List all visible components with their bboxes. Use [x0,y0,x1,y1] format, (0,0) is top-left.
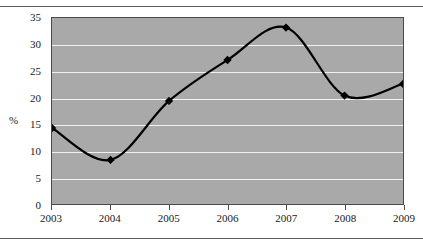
x-axis-tick-mark [51,205,52,210]
y-axis-tick-label: 35 [30,12,41,23]
x-axis-tick-label: 2003 [40,213,62,224]
y-axis-tick-label: 15 [30,119,41,130]
x-axis-tick-mark [169,205,170,210]
x-axis-tick-label: 2009 [393,213,415,224]
x-axis-tick-label: 2004 [99,213,121,224]
y-axis-tick-label: 30 [30,38,41,49]
data-point-marker [106,156,114,164]
y-axis-tick-label: 20 [30,92,41,103]
y-axis-tick-label: 10 [30,146,41,157]
x-axis-tick-mark [286,205,287,210]
x-axis-tick-label: 2008 [334,213,356,224]
x-axis-tick-label: 2005 [158,213,180,224]
y-axis-tick-label: 25 [30,65,41,76]
data-point-marker [399,80,403,88]
x-axis-tick-labels: 2003200420052006200720082009 [51,205,404,233]
x-axis-tick-mark [345,205,346,210]
y-axis-tick-label: 0 [36,200,42,211]
y-axis-tick-label: 5 [36,173,42,184]
x-axis-tick-label: 2006 [217,213,239,224]
plot-area [51,17,404,205]
x-axis-tick-mark [228,205,229,210]
data-point-marker [282,23,290,31]
bottom-divider-rule [0,238,423,239]
line-series [52,18,403,204]
series-line [52,27,403,161]
x-axis-tick-mark [110,205,111,210]
x-axis-tick-mark [404,205,405,210]
y-axis-tick-labels: 05101520253035 [0,17,47,205]
top-divider-rule [0,6,423,7]
chart-figure: % 05101520253035 20032004200520062007200… [0,0,423,246]
x-axis-tick-label: 2007 [275,213,297,224]
